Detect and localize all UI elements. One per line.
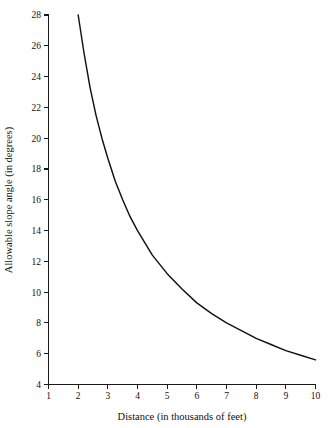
x-tick-label: 9 — [283, 391, 288, 401]
y-axis-ticks — [44, 15, 49, 385]
x-tick-label: 7 — [224, 391, 229, 401]
y-axis-tick-labels: 46810121416182022242628 — [32, 10, 42, 390]
x-tick-label: 3 — [105, 391, 110, 401]
chart-plot-area: 46810121416182022242628 12345678910 Dist… — [0, 0, 328, 428]
data-curve — [78, 15, 315, 360]
x-axis-ticks — [49, 385, 316, 390]
y-tick-label: 26 — [32, 41, 42, 51]
x-tick-label: 2 — [76, 391, 81, 401]
x-tick-label: 8 — [254, 391, 259, 401]
y-tick-label: 24 — [32, 72, 42, 82]
y-tick-label: 4 — [36, 380, 41, 390]
x-tick-label: 1 — [46, 391, 51, 401]
data-series-group — [78, 15, 315, 360]
x-axis-tick-labels: 12345678910 — [46, 391, 320, 401]
y-tick-label: 20 — [32, 134, 42, 144]
x-tick-label: 5 — [165, 391, 170, 401]
y-tick-label: 6 — [36, 349, 41, 359]
y-tick-label: 18 — [32, 164, 42, 174]
x-tick-label: 6 — [194, 391, 199, 401]
y-tick-label: 28 — [32, 10, 42, 20]
y-tick-label: 12 — [32, 257, 42, 267]
y-tick-label: 14 — [32, 226, 42, 236]
x-tick-label: 10 — [311, 391, 321, 401]
y-axis-title: Allowable slope angle (in degrees) — [3, 126, 15, 273]
x-tick-label: 4 — [135, 391, 140, 401]
y-tick-label: 10 — [32, 288, 42, 298]
y-tick-label: 8 — [36, 318, 41, 328]
y-tick-label: 22 — [32, 103, 42, 113]
x-axis-title: Distance (in thousands of feet) — [118, 411, 247, 423]
chart-figure: 46810121416182022242628 12345678910 Dist… — [0, 0, 328, 428]
y-tick-label: 16 — [32, 195, 42, 205]
